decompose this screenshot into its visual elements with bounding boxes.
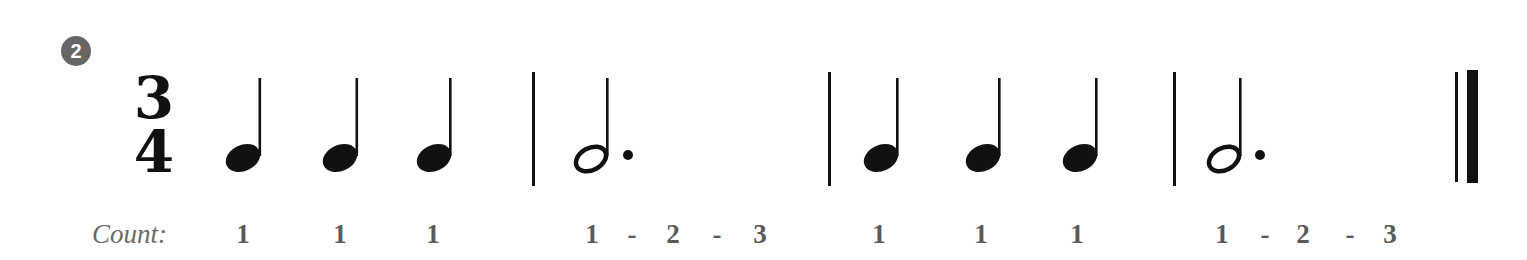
count-beat: 1 (236, 219, 250, 250)
count-beat: 3 (1383, 219, 1397, 250)
count-beat: 3 (753, 219, 767, 250)
count-label: Count: (92, 219, 167, 250)
barline (1173, 72, 1176, 186)
barline (532, 72, 535, 186)
count-beat: 1 (974, 219, 988, 250)
quarter-note-icon (1058, 78, 1102, 177)
dotted-half-note-icon (572, 78, 633, 176)
barline (828, 72, 831, 186)
final-barline (1455, 70, 1478, 183)
count-beat: 1 (426, 219, 440, 250)
count-dash: - (713, 219, 722, 250)
dotted-half-note-icon (1205, 78, 1265, 176)
count-dash: - (628, 219, 637, 250)
count-dash: - (1261, 219, 1270, 250)
count-beat: 1 (1215, 219, 1229, 250)
count-beat: 1 (872, 219, 886, 250)
count-beat: 1 (333, 219, 347, 250)
quarter-note-icon (859, 78, 903, 177)
quarter-note-icon (412, 78, 456, 177)
quarter-note-icon (221, 78, 265, 177)
count-beat: 1 (585, 219, 599, 250)
quarter-note-icon (318, 78, 362, 177)
count-beat: 2 (666, 219, 680, 250)
count-beat: 1 (1070, 219, 1084, 250)
quarter-note-icon (961, 78, 1005, 177)
count-beat: 2 (1296, 219, 1310, 250)
count-dash: - (1346, 219, 1355, 250)
